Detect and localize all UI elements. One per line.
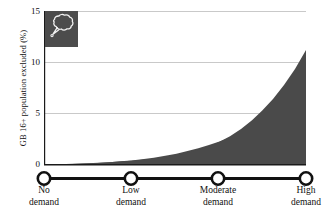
x-tick-label-line1: Low [122, 185, 139, 195]
x-tick-label-line1: Moderate [200, 185, 236, 195]
x-tick-label-line2: demand [88, 197, 174, 209]
x-tick-label-line2: demand [1, 197, 87, 209]
speech-bubble-icon [45, 11, 78, 47]
x-tick-label-no-demand: No demand [1, 185, 87, 208]
timeline-node-low-demand[interactable] [125, 172, 137, 184]
plot-canvas [44, 11, 306, 167]
plot-area [44, 11, 306, 166]
y-tick-label-10: 10 [24, 58, 40, 67]
x-tick-label-line2: demand [263, 197, 326, 209]
y-tick-label-15: 15 [24, 7, 40, 16]
x-tick-label-line1: High [297, 185, 316, 195]
x-axis-timeline: No demand Low demand Moderate demand Hig… [0, 166, 320, 216]
timeline-node-moderate-demand[interactable] [212, 172, 224, 184]
x-tick-label-low-demand: Low demand [88, 185, 174, 208]
timeline-node-no-demand[interactable] [38, 172, 50, 184]
x-tick-label-line2: demand [175, 197, 261, 209]
timeline-node-high-demand[interactable] [300, 172, 312, 184]
y-tick-label-5: 5 [24, 109, 40, 118]
x-tick-label-moderate-demand: Moderate demand [175, 185, 261, 208]
gridlines [44, 12, 306, 114]
x-tick-label-line1: No [38, 185, 50, 195]
area-series-curve [44, 50, 306, 165]
x-tick-label-high-demand: High demand [263, 185, 326, 208]
